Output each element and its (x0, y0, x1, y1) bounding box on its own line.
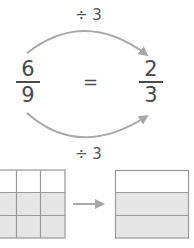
left-grid (0, 170, 65, 238)
top-operation-label: ÷ 3 (75, 6, 102, 24)
left-numerator: 6 (16, 58, 40, 80)
right-grid (116, 171, 189, 239)
left-fraction: 6 9 (16, 58, 40, 106)
equals-sign: = (83, 71, 98, 92)
right-numerator: 2 (139, 58, 163, 80)
right-denominator: 3 (139, 84, 163, 106)
top-arc-arrow (27, 31, 147, 55)
right-fraction: 2 3 (139, 58, 163, 106)
left-denominator: 9 (16, 84, 40, 106)
diagram-graphics (0, 0, 194, 248)
bottom-arc-arrow (27, 113, 147, 137)
bottom-operation-label: ÷ 3 (75, 145, 102, 163)
